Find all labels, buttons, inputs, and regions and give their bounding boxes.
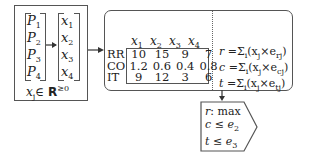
table-row: 9 12 3 6 xyxy=(127,72,220,84)
project-vector: P1 P2 P3 P4 xyxy=(27,12,41,80)
row-labels: RR CO IT xyxy=(107,49,125,84)
table-cell: 3 xyxy=(174,72,197,84)
row-label: IT xyxy=(107,72,125,84)
flow-arrow-icon xyxy=(88,45,105,55)
formula-t: t =Σi(xj×etj) xyxy=(219,78,288,94)
variable-item: x2 xyxy=(61,29,73,46)
coefficient-table: 10 15 9 7 1.2 0.6 0.4 0.8 9 12 3 6 xyxy=(127,49,220,84)
table-cell: 9 xyxy=(127,72,150,84)
objective-constraints: r: max c ≤ e2 t ≤ e3 xyxy=(205,105,241,152)
objective-line: r: max xyxy=(205,105,241,118)
formula-r: r =Σi(xj×erj) xyxy=(219,46,288,62)
formula-c: c =Σi(xj×ecj) xyxy=(219,62,288,78)
mapping-arrow-icon xyxy=(46,40,58,50)
constraint-line: c ≤ e2 xyxy=(205,118,241,135)
variable-item: x3 xyxy=(61,46,73,63)
table-cell: 12 xyxy=(150,72,173,84)
formulas: r =Σi(xj×erj) c =Σi(xj×ecj) t =Σi(xj×etj… xyxy=(219,46,288,94)
project-item: P3 xyxy=(27,46,41,63)
table-cell: 6 xyxy=(197,72,220,84)
variable-domain: xj∈ R≥0 xyxy=(26,84,69,101)
project-item: P4 xyxy=(27,63,41,80)
variable-item: x1 xyxy=(61,12,73,29)
constraint-line: t ≤ e3 xyxy=(205,135,241,152)
project-item: P2 xyxy=(27,29,41,46)
variable-vector: x1 x2 x3 x4 xyxy=(61,12,73,80)
x-vector-right-bracket xyxy=(74,13,80,81)
variable-item: x4 xyxy=(61,63,73,80)
project-item: P1 xyxy=(27,12,41,29)
